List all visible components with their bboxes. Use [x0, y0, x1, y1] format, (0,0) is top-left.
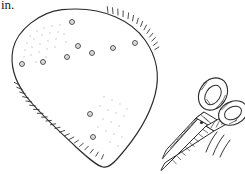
line-drawing-canvas [0, 0, 245, 174]
illustration-page: in. [0, 0, 245, 174]
blob-group [12, 7, 159, 168]
motion-lines [206, 132, 230, 157]
scissors-group [161, 72, 245, 170]
blob-shape-outline [12, 9, 157, 167]
scissors-pivot-dot [200, 121, 203, 124]
